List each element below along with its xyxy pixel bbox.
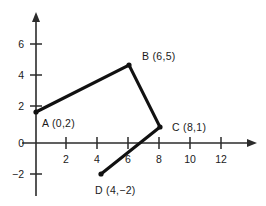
point-labels-group: A (0,2) B (6,5) C (8,1) D (4,−2) [42, 50, 206, 196]
vertex-dot-c [157, 124, 162, 129]
y-axis-arrow-icon [32, 12, 40, 22]
x-axis-arrow-icon [247, 139, 257, 147]
x-tick-label-4: 4 [94, 153, 100, 165]
x-tick-labels-group: 2 4 6 8 10 12 [63, 153, 227, 165]
vertex-dot-a [33, 109, 38, 114]
x-tick-label-10: 10 [184, 153, 196, 165]
point-label-a: A (0,2) [42, 117, 75, 129]
coordinate-plane-figure: 2 4 6 8 10 12 6 4 2 0 −2 A (0,2) [0, 0, 266, 206]
y-tick-label-6: 6 [18, 38, 24, 50]
y-tick-labels-group: 6 4 2 0 −2 [12, 38, 24, 180]
y-tick-label-neg-2: −2 [12, 168, 24, 180]
x-tick-label-2: 2 [63, 153, 69, 165]
point-label-c: C (8,1) [172, 121, 206, 133]
y-tick-label-4: 4 [18, 69, 24, 81]
point-label-d: D (4,−2) [95, 184, 136, 196]
coordinate-plot: 2 4 6 8 10 12 6 4 2 0 −2 A (0,2) [0, 0, 266, 206]
x-tick-label-8: 8 [156, 153, 162, 165]
vertex-dot-d [98, 171, 103, 176]
point-label-b: B (6,5) [142, 50, 176, 62]
axes-group [22, 12, 257, 196]
vertex-dot-b [126, 62, 131, 67]
x-tick-label-12: 12 [215, 153, 227, 165]
y-tick-label-2: 2 [18, 100, 24, 112]
y-tick-label-0: 0 [18, 137, 24, 149]
